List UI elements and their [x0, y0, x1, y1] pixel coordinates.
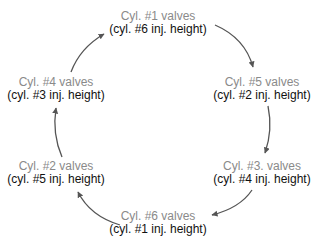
arrow-5-to-3 [265, 106, 270, 153]
height-label: (cyl. #4 inj. height) [213, 173, 310, 186]
node-cyl-1: Cyl. #1 valves (cyl. #6 inj. height) [109, 10, 206, 36]
height-label: (cyl. #3 inj. height) [7, 89, 104, 102]
arrow-2-to-4 [55, 108, 62, 157]
height-label: (cyl. #2 inj. height) [213, 89, 310, 102]
height-label: (cyl. #6 inj. height) [109, 23, 206, 36]
height-label: (cyl. #5 inj. height) [7, 173, 104, 186]
node-cyl-5: Cyl. #5 valves (cyl. #2 inj. height) [213, 76, 310, 102]
arrow-1-to-5 [215, 25, 253, 67]
arrow-4-to-1 [71, 34, 104, 72]
node-cyl-3: Cyl. #3. valves (cyl. #4 inj. height) [213, 160, 310, 186]
node-cyl-6: Cyl. #6 valves (cyl. #1 inj. height) [109, 210, 206, 236]
arrow-3-to-6 [212, 190, 252, 215]
node-cyl-4: Cyl. #4 valves (cyl. #3 inj. height) [7, 76, 104, 102]
node-cyl-2: Cyl. #2 valves (cyl. #5 inj. height) [7, 160, 104, 186]
height-label: (cyl. #1 inj. height) [109, 223, 206, 236]
